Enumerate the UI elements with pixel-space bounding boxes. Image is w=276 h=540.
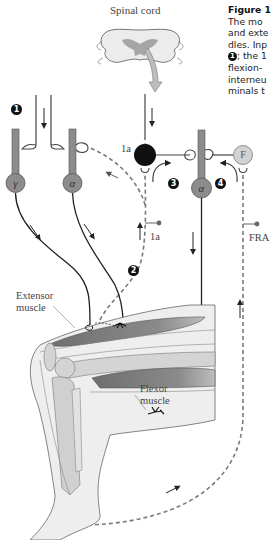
caption-line: interneu [228,74,276,86]
caption-title: Figure 1 [228,4,276,16]
flexor-muscle-label: Flexor muscle [140,383,170,407]
caption-badge-1: 1 [228,52,237,61]
flexion-interneuron-label: F [233,149,253,161]
extensor-muscle-label: Extensor muscle [16,290,53,314]
caption-line: flexion- [228,62,276,74]
gamma-motor-neuron-label: γ [6,177,26,189]
alpha-flexor-motor-neuron-label: α [192,182,212,194]
spinal-reflex-diagram: Figure 1 The mo and exte dles. Inp 1; th… [0,0,276,540]
spinal-cord-label: Spinal cord [110,4,160,16]
badge-3: 3 [168,178,179,189]
badge-2: 2 [128,265,139,276]
caption-line: minals t [228,85,276,97]
ia-afferent-label: 1a [150,231,160,243]
flexor-label-line2: muscle [140,395,170,407]
spinal-cord-section [97,29,183,92]
caption-line-text: ; the 1 [237,50,267,61]
extensor-label-line1: Extensor [16,290,53,302]
badge-1: 1 [11,104,22,115]
badge-4: 4 [215,178,226,189]
caption-line: 1; the 1 [228,50,276,62]
caption-line: The mo [228,16,276,28]
figure-caption: Figure 1 The mo and exte dles. Inp 1; th… [228,4,276,97]
extensor-label-line2: muscle [16,302,53,314]
caption-line: and exte [228,27,276,39]
flexor-label-line1: Flexor [140,383,170,395]
alpha-extensor-motor-neuron-label: α [63,177,83,189]
ia-interneuron-label: 1a [121,143,131,155]
caption-line: dles. Inp [228,39,276,51]
fra-label: FRA [249,232,269,244]
